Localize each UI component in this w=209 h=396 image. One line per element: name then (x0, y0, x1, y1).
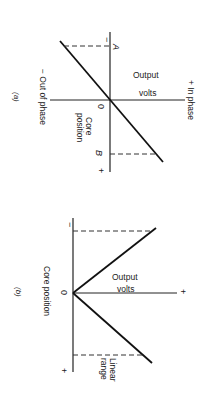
core-label-a-2: position (75, 113, 85, 143)
output-line-b-lower (73, 293, 152, 363)
point-a-label: A (111, 43, 121, 50)
core-position-label-b: Core position (42, 266, 52, 316)
figure-b-label: (b) (14, 287, 23, 297)
origin-label-b: 0 (59, 290, 69, 295)
figure-a: − A B + 0 Output volts + In phase Core p… (12, 32, 196, 173)
in-phase-label: + In phase (186, 80, 196, 120)
output-label-b-1: Output (112, 272, 138, 282)
minus-label-a: − (102, 37, 112, 42)
figure-b: − 0 + Output volts + Core position Linea… (14, 218, 188, 382)
figure-a-label: (a) (12, 92, 21, 102)
core-plus-label-b: + (59, 368, 69, 373)
linear-range-label-2: range (99, 358, 109, 380)
plus-label-b: + (178, 289, 188, 294)
output-label-a-1: Output (133, 70, 159, 80)
point-b-label: B (94, 150, 104, 156)
output-line-a (60, 41, 163, 162)
out-of-phase-label: − Out of phase (38, 69, 48, 125)
output-label-a-2: volts (139, 88, 156, 98)
output-line-b-upper (73, 228, 156, 293)
lvdt-diagram: − A B + 0 Output volts + In phase Core p… (0, 0, 209, 396)
minus-label-b: − (65, 222, 75, 227)
output-label-b-2: volts (117, 284, 134, 294)
origin-label-a: 0 (96, 104, 106, 109)
plus-label-a: + (96, 168, 106, 173)
